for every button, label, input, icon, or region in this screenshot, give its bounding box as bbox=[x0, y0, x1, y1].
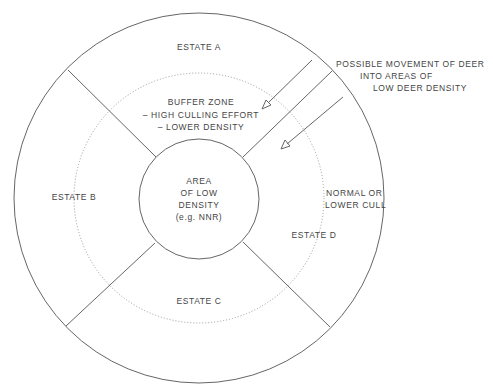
movement-note-line3: LOW DEER DENSITY bbox=[373, 83, 467, 93]
estate-c-label: ESTATE C bbox=[176, 296, 221, 306]
buffer-zone-title: BUFFER ZONE bbox=[168, 97, 235, 107]
core-area-line4: (e.g. NNR) bbox=[176, 212, 223, 222]
core-area-line3: DENSITY bbox=[178, 200, 219, 210]
outer-note-line1: NORMAL OR bbox=[326, 188, 383, 198]
movement-note-line1: POSSIBLE MOVEMENT OF DEER bbox=[336, 59, 485, 69]
outer-note-line2: LOWER CULL bbox=[325, 200, 386, 210]
core-area-line1: AREA bbox=[186, 176, 212, 186]
divider-sw bbox=[66, 243, 155, 326]
buffer-zone-line3: – LOWER DENSITY bbox=[158, 122, 244, 132]
deer-zone-diagram: ESTATE A ESTATE B ESTATE C ESTATE D BUFF… bbox=[0, 0, 493, 391]
estate-b-label: ESTATE B bbox=[52, 192, 97, 202]
movement-note-line2: INTO AREAS OF bbox=[360, 71, 433, 81]
movement-arrow-icon bbox=[262, 60, 312, 109]
divider-se bbox=[243, 242, 330, 327]
estate-a-label: ESTATE A bbox=[177, 42, 221, 52]
core-area-line2: OF LOW bbox=[180, 188, 217, 198]
buffer-zone-line2: – HIGH CULLING EFFORT bbox=[143, 110, 259, 120]
movement-arrow-icon bbox=[281, 97, 343, 149]
core-area-circle bbox=[139, 139, 259, 259]
estate-d-label: ESTATE D bbox=[291, 230, 336, 240]
